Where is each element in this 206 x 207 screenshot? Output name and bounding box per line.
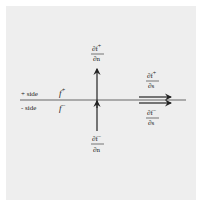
svg-text:∂n: ∂n [93, 146, 100, 154]
interface-diagram: + side - side f+ f− ∂f+ ∂n ∂f− ∂n ∂f+ ∂s… [0, 0, 206, 207]
f-plus-label: f+ [59, 87, 66, 98]
tangent-derivative-minus: ∂f− ∂s [146, 107, 159, 127]
normal-derivative-minus: ∂f− ∂n [91, 133, 104, 154]
svg-text:∂n: ∂n [93, 55, 100, 63]
svg-text:∂f+: ∂f+ [92, 43, 102, 53]
normal-derivative-plus: ∂f+ ∂n [91, 43, 104, 63]
svg-text:∂s: ∂s [148, 119, 154, 127]
plus-side-label: + side [21, 90, 38, 98]
svg-text:∂f+: ∂f+ [147, 70, 157, 80]
minus-side-label: - side [21, 104, 36, 112]
svg-text:∂f−: ∂f− [147, 107, 157, 117]
svg-text:∂f−: ∂f− [92, 133, 102, 143]
f-minus-label: f− [59, 102, 66, 113]
tangent-derivative-plus: ∂f+ ∂s [146, 70, 159, 90]
svg-text:∂s: ∂s [148, 82, 154, 90]
